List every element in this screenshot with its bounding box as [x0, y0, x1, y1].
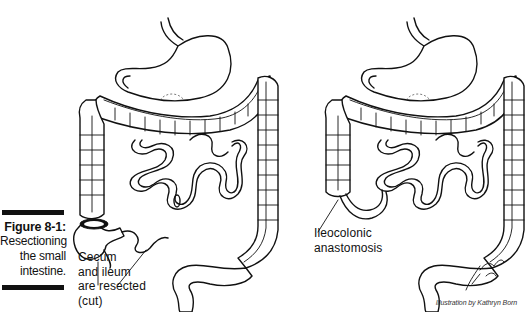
callout-line: and ileum — [78, 265, 146, 280]
callout-line: Ileocolonic — [314, 226, 382, 241]
callout-line: (cut) — [78, 294, 146, 309]
callout-line: are resected — [78, 279, 146, 294]
callout-line: anastomosis — [314, 241, 382, 256]
callout-ileocolonic-anastomosis: Ileocolonic anastomosis — [314, 226, 382, 255]
right-digestive-illustration — [318, 18, 524, 312]
illustration-credit: Illustration by Kathryn Born — [436, 299, 517, 306]
callout-cecum-ileum-resected: Cecum and ileum are resected (cut) — [78, 250, 146, 308]
callout-line: Cecum — [78, 250, 146, 265]
